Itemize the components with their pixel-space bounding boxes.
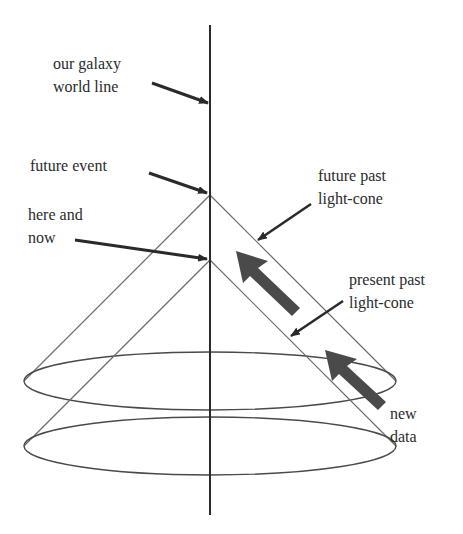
future-event-label: future event — [30, 154, 107, 177]
world-line-label: our galaxy world line — [53, 52, 121, 98]
new-data-label-line1: new — [390, 402, 417, 425]
present-past-light-cone-label-line1: present past — [349, 268, 425, 291]
here-and-now-label: here and now — [28, 203, 83, 249]
new-data-label: new data — [390, 402, 417, 448]
future-past-light-cone-label-line1: future past — [318, 164, 386, 187]
here-and-now-pointer-arrow — [75, 240, 207, 259]
future-event-pointer-arrow — [149, 173, 207, 193]
future-cone-pointer-arrow — [258, 204, 311, 240]
data-arrow-lower — [325, 350, 386, 410]
present-past-light-cone-label: present past light-cone — [349, 268, 425, 314]
here-and-now-label-line2: now — [28, 226, 83, 249]
future-past-light-cone-label-line2: light-cone — [318, 187, 386, 210]
world-line-label-line2: world line — [53, 75, 121, 98]
world-line-label-line1: our galaxy — [53, 52, 121, 75]
present-past-light-cone-label-line2: light-cone — [349, 291, 425, 314]
future-past-light-cone-label: future past light-cone — [318, 164, 386, 210]
future-event-label-line1: future event — [30, 154, 107, 177]
data-arrow-upper — [236, 251, 300, 316]
new-data-label-line2: data — [390, 425, 417, 448]
here-and-now-label-line1: here and — [28, 203, 83, 226]
present-cone-pointer-arrow — [291, 301, 343, 336]
world-line-pointer-arrow — [152, 83, 208, 103]
